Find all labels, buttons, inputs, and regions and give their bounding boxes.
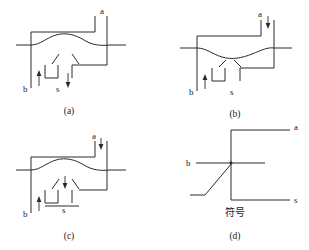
figure-root: b s a (a)	[0, 0, 309, 250]
panel-b-label-s: s	[230, 87, 234, 97]
panel-c-terminal-s-arrow-down-icon	[63, 176, 68, 189]
panel-a-junction-curve	[31, 34, 110, 46]
panel-a-label-s: s	[56, 84, 60, 94]
panel-d-label-b: b	[186, 158, 191, 168]
panel-d-label-s: s	[294, 195, 298, 205]
panel-a-caption: (a)	[64, 106, 75, 117]
panel-c-s-arrow-head	[63, 183, 68, 189]
panel-c-caption: (c)	[64, 231, 75, 242]
panel-a-label-a: a	[100, 6, 104, 16]
panel-c-label-a: a	[92, 131, 96, 141]
panel-c-terminal-b-arrow-up-icon	[37, 196, 42, 211]
panel-b-terminal-b-arrow-up-icon	[203, 74, 208, 89]
panel-c-label-s: s	[62, 205, 66, 215]
panel-b-label-a: a	[258, 9, 262, 19]
panel-b-label-b: b	[189, 87, 194, 97]
panel-c-terminal-a-arrow-down-icon	[99, 138, 104, 150]
panel-b-junction-curve	[197, 48, 274, 59]
panel-d-junction-dot	[230, 162, 233, 165]
panel-c-a-arrow-head	[99, 144, 104, 150]
panel-c-label-b: b	[23, 209, 28, 219]
panel-a-s-arrow-head	[66, 82, 71, 88]
panel-d-symbol: a b s 符号 (d)	[186, 122, 298, 242]
panel-a-left-angled-lead	[52, 54, 59, 64]
panel-b-b-arrow-head	[203, 74, 208, 80]
device-cross-section-figure: b s a (a)	[0, 0, 309, 250]
panel-a-terminal-b-arrow-up-icon	[37, 70, 42, 86]
panel-b-right-angled-lead	[234, 60, 241, 67]
panel-b-a-arrow-head	[266, 23, 271, 29]
panel-b-terminal-a-arrow-down-icon	[266, 16, 271, 29]
panel-d-label-a: a	[294, 122, 298, 132]
panel-a-label-b: b	[23, 84, 28, 94]
panel-b-left-gate-bracket	[212, 68, 225, 81]
panel-d-caption: (d)	[229, 231, 240, 242]
panel-c: b s a (c)	[16, 131, 126, 242]
panel-c-left-gate-bracket	[45, 190, 58, 203]
panel-d-diagonal-lead	[205, 163, 232, 195]
panel-a: b s a (a)	[16, 6, 126, 117]
panel-c-junction-curve	[31, 159, 110, 171]
panel-a-right-angled-lead	[72, 54, 79, 64]
panel-d-symbol-label: 符号	[225, 206, 245, 218]
panel-b-left-angled-lead	[219, 60, 226, 67]
panel-a-terminal-s-arrow-down-icon	[66, 73, 71, 88]
panel-c-left-angled-lead	[52, 179, 59, 189]
panel-c-right-angled-lead	[72, 179, 79, 189]
panel-c-b-arrow-head	[37, 196, 42, 202]
panel-a-left-gate-bracket	[45, 65, 58, 78]
panel-a-b-arrow-head	[37, 70, 42, 76]
panel-b-caption: (b)	[229, 109, 240, 120]
panel-b: b s a (b)	[180, 9, 292, 120]
